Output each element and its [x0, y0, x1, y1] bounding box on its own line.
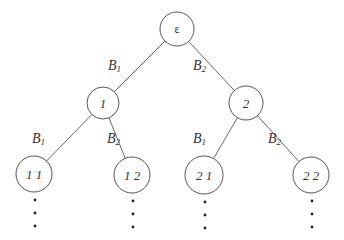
edge-label-n1-n11: B1: [32, 131, 45, 147]
node-label: ε: [174, 22, 179, 36]
ellipsis-dot: [204, 214, 207, 217]
tree-node-n12: 1 2: [114, 157, 150, 193]
continuation-dots-group: [34, 199, 314, 230]
edge-label-n2-n22: B2: [268, 131, 282, 147]
edge-label-n1-n12: B2: [107, 131, 121, 147]
node-label: 2 1: [196, 168, 212, 183]
tree-node-root: ε: [160, 12, 194, 46]
edge-n1-n11: [47, 114, 92, 161]
ellipsis-dot: [204, 201, 207, 204]
ellipsis-dot: [34, 199, 37, 202]
ellipsis-dot: [132, 200, 135, 203]
edge-n2-n21: [214, 118, 238, 159]
tree-node-n22: 2 2: [293, 157, 329, 193]
edge-root-n1: [114, 41, 165, 92]
ellipsis-dot: [311, 200, 314, 203]
ellipsis-dot: [132, 226, 135, 229]
node-label: 2 2: [303, 168, 320, 183]
nodes-group: ε121 11 22 12 2: [16, 12, 329, 194]
edge-label-root-n2: B2: [193, 58, 207, 74]
ellipsis-dot: [204, 227, 207, 230]
node-label: 2: [243, 96, 250, 111]
edge-label-n2-n21: B1: [193, 131, 206, 147]
ellipsis-dot: [132, 213, 135, 216]
edge-label-root-n1: B1: [108, 58, 121, 74]
tree-node-n21: 2 1: [185, 156, 223, 194]
tree-node-n1: 1: [87, 87, 119, 119]
tree-node-n11: 1 1: [16, 156, 52, 192]
ellipsis-dot: [34, 225, 37, 228]
ellipsis-dot: [311, 226, 314, 229]
tree-diagram: B1B2B1B2B1B2 ε121 11 22 12 2: [0, 0, 344, 240]
ellipsis-dot: [311, 213, 314, 216]
tree-node-n2: 2: [229, 86, 263, 120]
node-label: 1: [100, 96, 107, 111]
node-label: 1 2: [124, 168, 141, 183]
ellipsis-dot: [34, 212, 37, 215]
node-label: 1 1: [26, 167, 42, 182]
